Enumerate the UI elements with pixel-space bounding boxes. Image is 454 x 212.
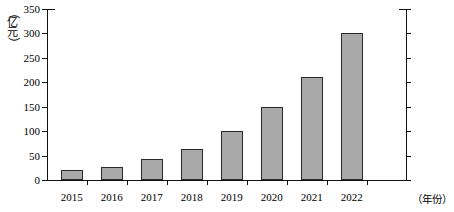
bar-2020: [261, 107, 283, 180]
bar-2016: [101, 167, 123, 180]
bar-slot: [332, 9, 372, 180]
y-tick-label: 50: [29, 150, 40, 161]
plot-area: 050100150200250300350 201520162017201820…: [47, 9, 407, 181]
bars-group: [47, 9, 407, 180]
x-tick-mark: [87, 180, 88, 185]
bar-2015: [61, 170, 83, 180]
x-tick-label-2022: 2022: [329, 191, 375, 203]
x-tick-mark: [167, 180, 168, 185]
bar-2018: [181, 149, 203, 180]
bar-slot: [212, 9, 252, 180]
y-tick-label: 150: [24, 101, 41, 112]
bar-slot: [92, 9, 132, 180]
x-tick-mark: [367, 180, 368, 185]
y-tick-label: 200: [24, 77, 41, 88]
bar-slot: [132, 9, 172, 180]
y-tick-label: 0: [35, 175, 41, 186]
bar-2022: [341, 33, 363, 180]
bar-slot: [172, 9, 212, 180]
bar-chart: （ 亿 元 ） 050100150200250300350 2015201620…: [0, 0, 454, 212]
y-tick-mark: [42, 180, 47, 181]
y-tick-label: 350: [24, 4, 41, 15]
y-axis-unit-label: （ 亿 元 ）: [2, 8, 22, 47]
x-tick-mark: [327, 180, 328, 185]
y-axis-unit-paren-open: （: [8, 7, 17, 19]
x-axis-line: [47, 180, 407, 181]
y-tick-label: 250: [24, 52, 41, 63]
bar-2017: [141, 159, 163, 180]
bar-slot: [292, 9, 332, 180]
y-tick-label: 100: [24, 126, 41, 137]
x-tick-mark: [127, 180, 128, 185]
x-axis-title: （年份）: [412, 191, 452, 206]
x-tick-mark: [207, 180, 208, 185]
bar-2021: [301, 77, 323, 180]
y-tick-label: 300: [24, 28, 41, 39]
y-axis-unit-paren-close: ）: [8, 36, 17, 48]
x-tick-mark: [247, 180, 248, 185]
bar-2019: [221, 131, 243, 180]
x-tick-mark: [287, 180, 288, 185]
bar-slot: [252, 9, 292, 180]
y-tick-mark-right: [406, 180, 411, 181]
bar-slot: [52, 9, 92, 180]
